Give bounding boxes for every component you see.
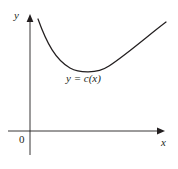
x-axis-label: x xyxy=(161,137,166,148)
cost-curve-figure: y x 0 y = c(x) xyxy=(0,0,178,169)
y-axis-arrowhead xyxy=(27,14,34,22)
curve-equation-label: y = c(x) xyxy=(66,73,101,84)
cost-curve-path xyxy=(38,19,166,72)
x-axis-arrowhead xyxy=(157,128,165,135)
y-axis xyxy=(27,14,34,155)
graph-canvas xyxy=(0,0,178,169)
origin-label: 0 xyxy=(19,134,25,145)
x-axis xyxy=(8,128,165,135)
y-axis-label: y xyxy=(14,10,19,21)
